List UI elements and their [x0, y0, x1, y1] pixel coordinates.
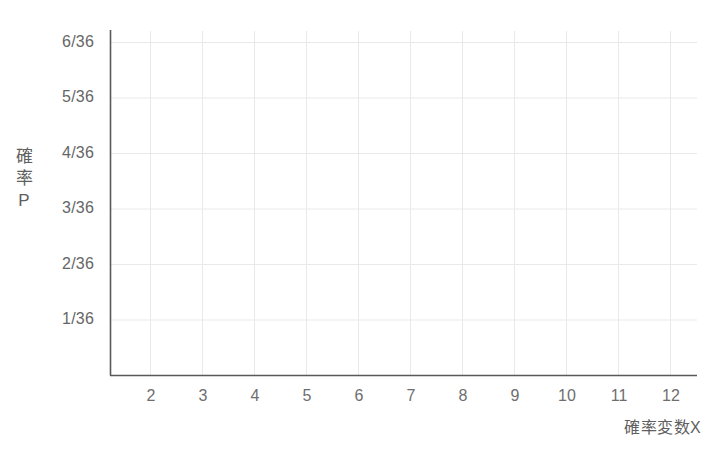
y-tick-label-5-36: 5/36 [44, 89, 94, 105]
y-tick-label-3-36: 3/36 [44, 200, 94, 216]
y-axis-title-char-2: 率 [12, 168, 36, 190]
x-tick-label-11: 11 [603, 388, 635, 404]
y-axis-title-char-3: P [12, 190, 36, 212]
y-tick-label-4-36: 4/36 [44, 145, 94, 161]
y-axis-title-char-1: 確 [12, 146, 36, 168]
x-tick-label-12: 12 [655, 388, 687, 404]
y-axis-title: 確 率 P [12, 146, 36, 211]
y-tick-label-1-36: 1/36 [44, 311, 94, 327]
x-tick-label-8: 8 [447, 388, 479, 404]
probability-distribution-chart: 6/36 5/36 4/36 3/36 2/36 1/36 2 3 4 5 6 … [0, 0, 722, 452]
x-tick-label-4: 4 [239, 388, 271, 404]
x-tick-label-6: 6 [343, 388, 375, 404]
x-tick-label-7: 7 [395, 388, 427, 404]
x-tick-label-3: 3 [187, 388, 219, 404]
x-tick-label-5: 5 [291, 388, 323, 404]
x-tick-label-10: 10 [551, 388, 583, 404]
y-tick-label-2-36: 2/36 [44, 256, 94, 272]
x-tick-label-2: 2 [135, 388, 167, 404]
chart-canvas [0, 0, 722, 452]
x-tick-label-9: 9 [499, 388, 531, 404]
y-tick-label-6-36: 6/36 [44, 34, 94, 50]
plot-background [0, 0, 722, 452]
x-axis-title: 確率変数X [624, 414, 701, 438]
